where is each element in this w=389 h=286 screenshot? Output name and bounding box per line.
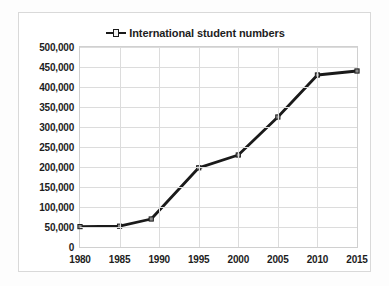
legend-entry-label: International student numbers <box>129 27 284 39</box>
gridline-horizontal <box>80 127 357 128</box>
legend-line-marker-icon <box>106 28 126 38</box>
chart-figure: International student numbers 050,000100… <box>0 0 389 286</box>
gridline-vertical <box>238 47 239 247</box>
series-path <box>80 71 357 227</box>
y-axis-tick-label: 500,000 <box>39 42 74 53</box>
plot-area: 050,000100,000150,000200,000250,000300,0… <box>79 46 358 248</box>
y-axis-tick-label: 150,000 <box>39 182 74 193</box>
x-axis-tick-label: 2005 <box>267 254 288 265</box>
gridline-horizontal <box>80 47 357 48</box>
y-axis-tick-label: 200,000 <box>39 162 74 173</box>
y-axis-tick-label: 400,000 <box>39 82 74 93</box>
x-axis-tick-label: 2010 <box>307 254 328 265</box>
gridline-vertical <box>278 47 279 247</box>
gridline-vertical <box>199 47 200 247</box>
x-axis-tick-label: 1980 <box>69 254 90 265</box>
gridline-horizontal <box>80 87 357 88</box>
chart-frame: International student numbers 050,000100… <box>18 12 371 272</box>
gridline-horizontal <box>80 107 357 108</box>
x-axis-tick-label: 2000 <box>228 254 249 265</box>
x-axis-tick-label: 1990 <box>148 254 169 265</box>
y-axis-tick-label: 350,000 <box>39 102 74 113</box>
gridline-vertical <box>159 47 160 247</box>
gridline-vertical <box>317 47 318 247</box>
data-point-marker <box>355 69 359 73</box>
gridline-horizontal <box>80 167 357 168</box>
y-axis-tick-label: 250,000 <box>39 142 74 153</box>
gridline-horizontal <box>80 227 357 228</box>
y-axis-tick-label: 300,000 <box>39 122 74 133</box>
x-axis-tick-label: 2015 <box>346 254 367 265</box>
gridline-horizontal <box>80 207 357 208</box>
chart-legend: International student numbers <box>19 27 372 39</box>
y-axis-tick-label: 0 <box>69 242 74 253</box>
x-axis-tick-label: 1985 <box>109 254 130 265</box>
x-axis-tick-label: 1995 <box>188 254 209 265</box>
gridline-horizontal <box>80 67 357 68</box>
data-point-marker <box>149 217 153 221</box>
y-axis-tick-label: 50,000 <box>45 222 74 233</box>
y-axis-tick-label: 100,000 <box>39 202 74 213</box>
y-axis-tick-label: 450,000 <box>39 62 74 73</box>
gridline-horizontal <box>80 147 357 148</box>
gridline-vertical <box>120 47 121 247</box>
gridline-horizontal <box>80 187 357 188</box>
